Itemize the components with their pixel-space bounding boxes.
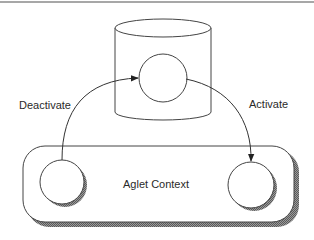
deactivate-label: Deactivate	[19, 100, 71, 111]
target-aglet-circle	[228, 162, 274, 208]
stored-aglet-circle	[139, 54, 187, 102]
activate-label: Activate	[249, 99, 288, 110]
aglet-context-label: Aglet Context	[123, 179, 189, 190]
diagram-canvas	[0, 0, 314, 240]
source-aglet-circle	[40, 160, 84, 204]
